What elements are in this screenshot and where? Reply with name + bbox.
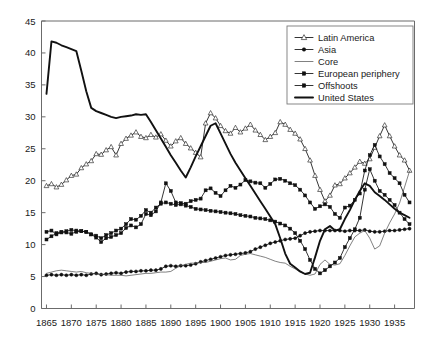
y-tick-label: 30 — [25, 111, 36, 122]
y-tick-label: 45 — [25, 16, 36, 27]
x-tick-label: 1910 — [260, 317, 281, 328]
legend-label: United States — [318, 93, 374, 103]
x-tick-label: 1890 — [160, 317, 181, 328]
x-tick-label: 1870 — [61, 317, 82, 328]
x-tick-label: 1925 — [334, 317, 355, 328]
y-tick-label: 40 — [25, 47, 36, 58]
x-tick-label: 1900 — [210, 317, 231, 328]
x-tick-label: 1885 — [135, 317, 156, 328]
x-tick-label: 1930 — [359, 317, 380, 328]
x-axis-tick-labels: 1865187018751880188518901895190019051910… — [36, 317, 405, 328]
y-tick-label: 10 — [25, 239, 36, 250]
x-tick-label: 1905 — [235, 317, 256, 328]
legend-label: Asia — [318, 45, 337, 55]
legend-label: Core — [318, 57, 338, 67]
y-tick-label: 0 — [30, 303, 35, 314]
legend-label: European periphery — [318, 69, 400, 79]
line-chart: 051015202530354045 186518701875188018851… — [0, 0, 426, 343]
x-tick-label: 1895 — [185, 317, 206, 328]
y-tick-label: 15 — [25, 207, 36, 218]
x-tick-label: 1865 — [36, 317, 57, 328]
chart-container: 051015202530354045 186518701875188018851… — [0, 0, 426, 343]
y-tick-label: 5 — [30, 271, 35, 282]
y-tick-label: 20 — [25, 175, 36, 186]
x-tick-label: 1880 — [111, 317, 132, 328]
x-tick-label: 1875 — [86, 317, 107, 328]
legend-label: Offshoots — [318, 81, 358, 91]
y-tick-label: 25 — [25, 143, 36, 154]
x-tick-label: 1935 — [384, 317, 405, 328]
chart-legend[interactable]: Latin AmericaAsiaCoreEuropean peripheryO… — [287, 26, 413, 104]
y-tick-label: 35 — [25, 79, 36, 90]
x-tick-label: 1915 — [285, 317, 306, 328]
x-tick-label: 1920 — [309, 317, 330, 328]
legend-label: Latin America — [318, 33, 375, 43]
